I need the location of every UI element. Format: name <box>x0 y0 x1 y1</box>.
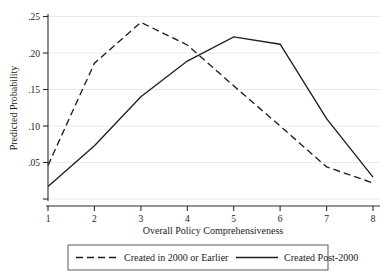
y-axis-title: Predicted Probability <box>8 66 19 151</box>
legend-label-created-post-2000: Created Post-2000 <box>284 252 358 263</box>
line-chart: .25 .20 .15 .10 .05 Predicted Probabilit… <box>0 0 392 279</box>
y-tick-label-005: .05 <box>28 158 40 168</box>
chart-figure: .25 .20 .15 .10 .05 Predicted Probabilit… <box>0 0 392 279</box>
series-line-created-2000-or-earlier <box>48 22 373 183</box>
x-tick-label-1: 1 <box>46 214 51 224</box>
x-axis: 1 2 3 4 5 6 7 8 Overall Policy Comprehen… <box>46 206 380 236</box>
legend: Created in 2000 or Earlier Created Post-… <box>68 245 358 270</box>
y-tick-label-015: .15 <box>28 85 40 95</box>
x-axis-title: Overall Policy Comprehensiveness <box>143 225 284 236</box>
legend-label-created-2000-or-earlier: Created in 2000 or Earlier <box>124 252 229 263</box>
x-tick-label-8: 8 <box>371 214 376 224</box>
x-tick-label-5: 5 <box>231 214 236 224</box>
series-group <box>48 22 373 186</box>
y-axis: .25 .20 .15 .10 .05 Predicted Probabilit… <box>8 12 48 201</box>
y-tick-label-020: .20 <box>28 49 40 59</box>
y-tick-label-010: .10 <box>28 122 40 132</box>
x-tick-label-7: 7 <box>324 214 329 224</box>
y-tick-label-025: .25 <box>28 12 40 22</box>
x-tick-label-3: 3 <box>139 214 144 224</box>
gridlines <box>48 17 380 200</box>
x-tick-label-6: 6 <box>278 214 283 224</box>
x-tick-label-4: 4 <box>185 214 190 224</box>
x-tick-label-2: 2 <box>92 214 97 224</box>
